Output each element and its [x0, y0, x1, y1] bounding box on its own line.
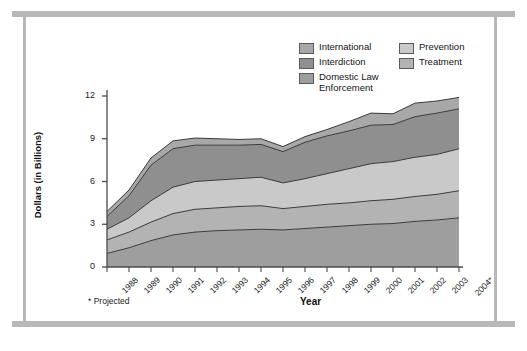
y-tick-label: 6 [75, 176, 95, 186]
legend-swatch-international [299, 43, 314, 54]
legend-swatch-domestic-law-enforcement [299, 73, 314, 84]
legend-item-treatment[interactable]: Treatment [399, 56, 489, 69]
y-tick-label: 9 [75, 133, 95, 143]
legend-swatch-treatment [399, 58, 414, 69]
y-tick-label: 12 [75, 90, 95, 100]
legend-column-2: Prevention Treatment [399, 41, 489, 95]
legend-item-domestic-law-enforcement[interactable]: Domestic Law Enforcement [299, 71, 399, 93]
y-tick-label: 0 [75, 261, 95, 271]
legend-item-international[interactable]: International [299, 41, 399, 54]
legend-label-treatment: Treatment [419, 56, 462, 67]
figure-frame: Dollars (in Billions) Year * Projected I… [0, 0, 527, 351]
y-axis-title: Dollars (in Billions) [32, 0, 43, 110]
legend-label-prevention: Prevention [419, 41, 464, 52]
x-axis-title: Year [300, 296, 321, 307]
legend-item-prevention[interactable]: Prevention [399, 41, 489, 54]
chart-legend: International Interdiction Domestic Law … [299, 41, 489, 95]
legend-swatch-prevention [399, 43, 414, 54]
legend-column-1: International Interdiction Domestic Law … [299, 41, 399, 95]
legend-label-domestic-law-enforcement: Domestic Law Enforcement [319, 71, 379, 93]
y-tick-label: 3 [75, 218, 95, 228]
chart-footnote: * Projected [88, 296, 130, 306]
y-axis-title-label: Dollars (in Billions) [32, 110, 43, 240]
legend-label-international: International [319, 41, 371, 52]
legend-swatch-interdiction [299, 58, 314, 69]
legend-label-interdiction: Interdiction [319, 56, 365, 67]
legend-item-interdiction[interactable]: Interdiction [299, 56, 399, 69]
